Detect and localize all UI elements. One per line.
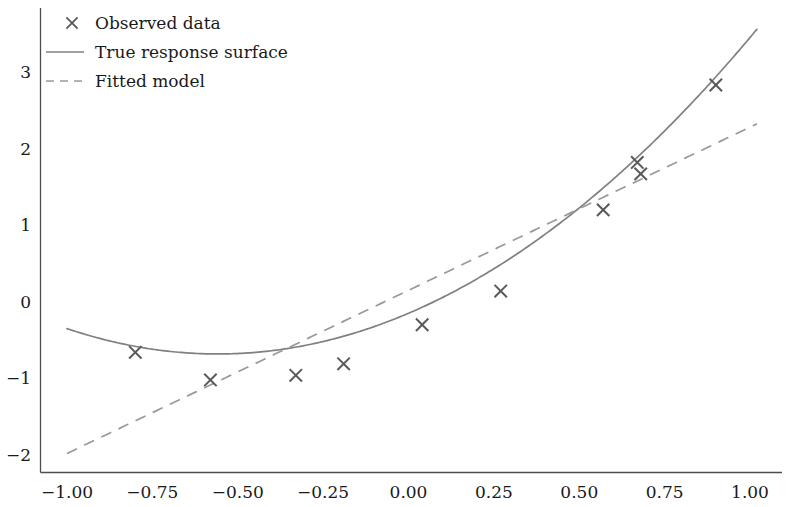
- x-tick-label: −0.50: [212, 482, 264, 502]
- response-surface-chart: −1.00−0.75−0.50−0.250.000.250.500.751.00…: [0, 0, 791, 507]
- x-tick-label: −0.25: [297, 482, 349, 502]
- legend-label: Fitted model: [95, 71, 205, 91]
- y-tick-label: 3: [20, 62, 31, 82]
- y-tick-label: 1: [20, 215, 31, 235]
- x-tick-label: 0.75: [646, 482, 684, 502]
- x-tick-label: −1.00: [41, 482, 93, 502]
- x-axis-tick-labels: −1.00−0.75−0.50−0.250.000.250.500.751.00: [41, 482, 769, 502]
- y-tick-label: −1: [6, 368, 31, 388]
- y-tick-label: −2: [6, 445, 31, 465]
- x-tick-label: −0.75: [126, 482, 178, 502]
- legend-label: True response surface: [95, 42, 288, 62]
- x-tick-label: 0.25: [475, 482, 513, 502]
- chart-figure: −1.00−0.75−0.50−0.250.000.250.500.751.00…: [0, 0, 791, 507]
- x-tick-label: 1.00: [731, 482, 769, 502]
- x-tick-label: 0.50: [560, 482, 598, 502]
- y-tick-label: 2: [20, 139, 31, 159]
- y-tick-label: 0: [20, 292, 31, 312]
- x-tick-label: 0.00: [390, 482, 428, 502]
- legend-label: Observed data: [95, 13, 221, 33]
